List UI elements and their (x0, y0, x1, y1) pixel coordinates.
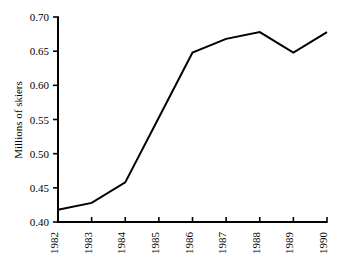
y-axis-tick-label: 0.70 (30, 11, 50, 23)
y-axis-title: Millions of skiers (12, 81, 24, 159)
chart-container: 0.400.450.500.550.600.650.70 19821983198… (0, 0, 339, 269)
x-axis-tick-label: 1986 (183, 232, 195, 255)
y-axis-tick-label: 0.40 (30, 216, 50, 228)
line-chart: 0.400.450.500.550.600.650.70 19821983198… (0, 0, 339, 269)
x-axis-tick-label: 1983 (82, 232, 94, 255)
chart-background (0, 0, 339, 269)
x-axis-tick-label: 1982 (48, 232, 60, 254)
x-axis-tick-label: 1984 (115, 232, 127, 255)
y-axis-tick-label: 0.50 (30, 148, 50, 160)
y-axis-tick-label: 0.60 (30, 79, 50, 91)
x-axis-tick-label: 1987 (216, 232, 228, 255)
y-axis-tick-label: 0.65 (30, 45, 50, 57)
x-axis-tick-label: 1985 (149, 232, 161, 255)
x-axis-tick-label: 1989 (283, 232, 295, 255)
x-axis-tick-label: 1988 (250, 232, 262, 255)
x-axis: 198219831984198519861987198819891990 (48, 217, 329, 254)
x-axis-tick-label: 1990 (317, 232, 329, 255)
y-axis-tick-label: 0.55 (30, 114, 50, 126)
y-axis-tick-label: 0.45 (30, 182, 50, 194)
x-axis-tick-labels: 198219831984198519861987198819891990 (48, 232, 329, 255)
